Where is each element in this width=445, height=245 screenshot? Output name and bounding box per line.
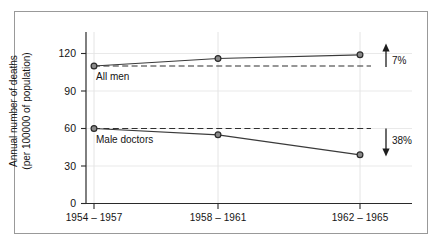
data-point-male-doctors-3 <box>357 152 363 158</box>
series-label-all-men: All men <box>96 71 129 83</box>
y-axis-label: Annual number of deaths (per 100000 of p… <box>8 26 38 196</box>
x-tick-label-3: 1962 – 1965 <box>314 212 406 224</box>
y-axis-label-line2: (per 100000 of population) <box>21 26 34 196</box>
annotation-label-38-percent: 38% <box>392 135 412 147</box>
annotation-label-7-percent: 7% <box>392 55 406 67</box>
x-tick-label-1: 1954 – 1957 <box>48 212 140 224</box>
data-point-all-men-3 <box>357 52 363 58</box>
series-label-male-doctors: Male doctors <box>96 134 153 146</box>
annotation-arrow-down-head <box>382 149 389 157</box>
chart-figure: Annual number of deaths (per 100000 of p… <box>0 0 445 245</box>
series-line-all-men <box>94 55 360 66</box>
y-tick-label-60: 60 <box>48 122 76 134</box>
y-tick-label-0: 0 <box>48 197 76 209</box>
y-tick-label-30: 30 <box>48 160 76 172</box>
y-axis-label-line1: Annual number of deaths <box>8 26 21 196</box>
data-point-all-men-2 <box>215 56 221 62</box>
x-tick-label-2: 1958 – 1961 <box>172 212 264 224</box>
data-point-male-doctors-2 <box>215 132 221 138</box>
data-point-male-doctors-1 <box>91 126 97 132</box>
y-tick-label-90: 90 <box>48 85 76 97</box>
y-tick-label-120: 120 <box>48 47 76 59</box>
data-point-all-men-1 <box>91 63 97 69</box>
annotation-arrow-up-head <box>382 44 389 52</box>
